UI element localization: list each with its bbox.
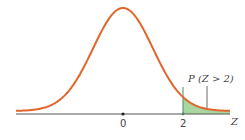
tick-2-marker [182, 113, 185, 116]
tick-0-marker [121, 112, 124, 115]
tick-label-2: 2 [180, 118, 186, 129]
area-annotation-label: P (Z > 2) [188, 73, 234, 84]
tick-label-0: 0 [120, 118, 126, 129]
x-axis-label: Z [231, 116, 238, 127]
density-curve [16, 8, 230, 111]
